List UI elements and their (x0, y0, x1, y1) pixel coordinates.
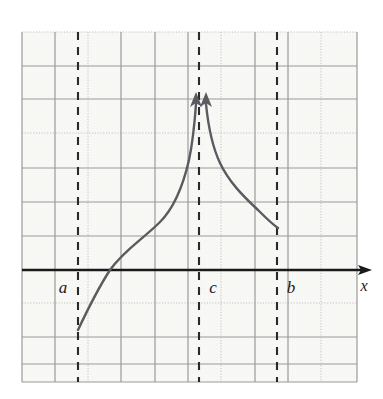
graph-svg: a c b x (0, 0, 383, 399)
label-a: a (59, 278, 68, 297)
figure-container: a c b x (0, 0, 383, 399)
label-c: c (209, 278, 217, 297)
label-b: b (287, 278, 296, 297)
plot-background (22, 32, 357, 382)
label-x-axis: x (359, 277, 367, 294)
